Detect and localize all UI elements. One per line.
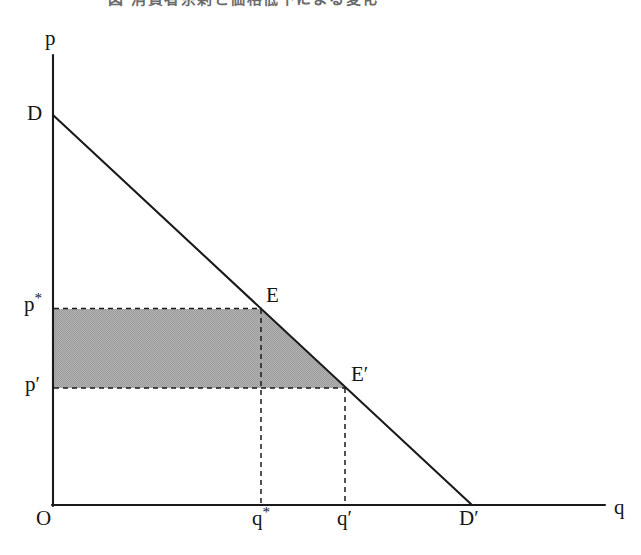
q-star-mark: * bbox=[263, 504, 271, 520]
p-star-base: p bbox=[24, 292, 35, 316]
equilibrium-point-label-E: E bbox=[266, 285, 279, 306]
p-star-mark: * bbox=[35, 290, 43, 306]
q-star-base: q bbox=[252, 506, 263, 530]
plot-canvas bbox=[0, 0, 641, 555]
e-prime-base: E bbox=[351, 362, 364, 386]
d-prime-base: D bbox=[459, 506, 474, 530]
quantity-axis-label: q bbox=[614, 497, 625, 518]
economics-demand-figure: 図 消費者余剰と価格低下による変化 p q O D D′ bbox=[0, 0, 641, 555]
equilibrium-point-label-E-prime: E′ bbox=[351, 364, 368, 385]
demand-intercept-label-D: D bbox=[27, 103, 42, 124]
p-prime-mark: ′ bbox=[36, 373, 40, 395]
q-prime-base: q bbox=[337, 506, 348, 530]
quantity-label-q-prime: q′ bbox=[337, 508, 352, 529]
e-prime-mark: ′ bbox=[364, 363, 368, 385]
price-label-p-star: p* bbox=[24, 294, 42, 315]
d-prime-mark: ′ bbox=[474, 507, 478, 529]
shaded-area-revenue-change bbox=[54, 309, 345, 388]
q-prime-mark: ′ bbox=[348, 507, 352, 529]
origin-label: O bbox=[36, 508, 51, 529]
price-label-p-prime: p′ bbox=[25, 374, 40, 395]
p-prime-base: p bbox=[25, 372, 36, 396]
demand-intercept-label-D-prime: D′ bbox=[459, 508, 479, 529]
price-axis-label: p bbox=[45, 28, 56, 49]
quantity-label-q-star: q* bbox=[252, 508, 270, 529]
